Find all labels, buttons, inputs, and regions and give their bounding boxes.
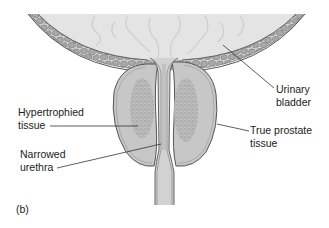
- panel-label: (b): [16, 203, 29, 216]
- label-true-prostate-tissue: True prostate tissue: [250, 124, 312, 150]
- label-line: urethra: [20, 161, 66, 174]
- label-urinary-bladder: Urinary bladder: [276, 83, 311, 109]
- label-line: tissue: [250, 137, 312, 150]
- label-narrowed-urethra: Narrowed urethra: [20, 148, 66, 174]
- leader-true-prostate: [217, 124, 249, 131]
- label-line: Narrowed: [20, 148, 66, 161]
- label-line: bladder: [276, 96, 311, 109]
- label-line: Hypertrophied: [18, 106, 84, 119]
- label-hypertrophied-tissue: Hypertrophied tissue: [18, 106, 84, 132]
- right-hypertrophied-tissue: [174, 78, 198, 142]
- label-line: Urinary: [276, 83, 311, 96]
- label-line: True prostate: [250, 124, 312, 137]
- label-line: tissue: [18, 119, 84, 132]
- left-hypertrophied-tissue: [130, 78, 154, 138]
